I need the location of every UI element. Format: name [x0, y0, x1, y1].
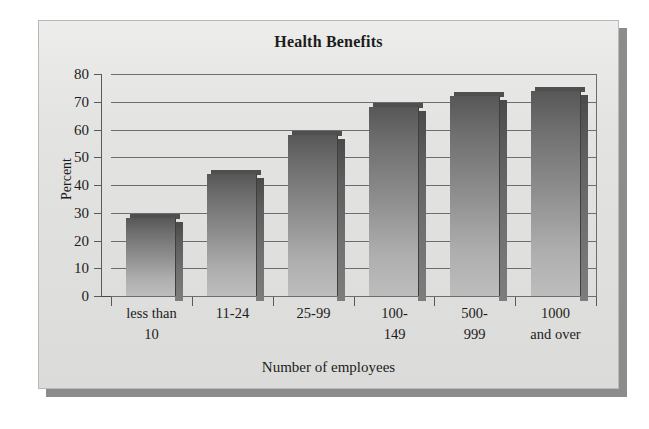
y-axis-tick-label: 70 [74, 93, 89, 110]
y-axis-tick-label: 10 [74, 260, 89, 277]
gridline [111, 102, 596, 103]
gridline [111, 74, 596, 75]
bar-side-face [418, 111, 426, 301]
x-axis-category-label-line: 999 [434, 324, 515, 345]
y-axis-tick-label: 40 [74, 177, 89, 194]
gridline [111, 213, 596, 214]
y-axis-tick-label: 50 [74, 149, 89, 166]
gridline [111, 185, 596, 186]
x-axis-category-label: 500-999 [434, 303, 515, 345]
y-axis-tick-label: 0 [82, 288, 90, 305]
x-axis-category-label-line: 1000 [515, 303, 596, 324]
gridline [111, 130, 596, 131]
bar-slot [126, 74, 176, 296]
x-axis-category-label-line: less than [111, 303, 192, 324]
y-axis-tick-mark [94, 296, 101, 297]
bar-slot [450, 74, 500, 296]
x-axis-category-label-line: 500- [434, 303, 515, 324]
y-axis-tick-label: 30 [74, 204, 89, 221]
x-axis-category-label-line: 100- [354, 303, 435, 324]
x-axis-category-label-line: 11-24 [192, 303, 273, 324]
bar[interactable] [126, 218, 176, 296]
y-axis-tick-mark [94, 241, 101, 242]
y-axis-tick-mark [94, 157, 101, 158]
bar[interactable] [450, 96, 500, 296]
x-axis-category-label: 25-99 [273, 303, 354, 324]
plot-right-border [596, 74, 597, 297]
x-axis-category-label-line: and over [515, 324, 596, 345]
x-axis-category-label-line: 149 [354, 324, 435, 345]
bar-side-face [337, 139, 345, 301]
bar-side-face [256, 178, 264, 301]
bar[interactable] [207, 174, 257, 296]
bar[interactable] [288, 135, 338, 296]
x-axis-category-label: 100-149 [354, 303, 435, 345]
x-axis-category-label: 11-24 [192, 303, 273, 324]
gridline [111, 157, 596, 158]
y-axis-tick-mark [94, 74, 101, 75]
x-axis-category-label: 1000and over [515, 303, 596, 345]
y-axis-tick-mark [94, 268, 101, 269]
plot-area: 80706050403020100 [111, 74, 596, 296]
y-axis-line [101, 74, 102, 297]
bar-side-face [580, 95, 588, 301]
y-axis-tick-label: 60 [74, 121, 89, 138]
y-axis-title: Percent [59, 129, 75, 229]
chart-title: Health Benefits [39, 33, 618, 51]
x-axis-tick-labels: less than1011-2425-99100-149500-9991000a… [111, 303, 596, 355]
bar-slot [288, 74, 338, 296]
gridline [111, 241, 596, 242]
y-axis-tick-mark [94, 213, 101, 214]
x-axis-category-label-line: 10 [111, 324, 192, 345]
bar-slot [369, 74, 419, 296]
bar[interactable] [369, 107, 419, 296]
bar-slot [531, 74, 581, 296]
x-axis-category-label: less than10 [111, 303, 192, 345]
bar-slot [207, 74, 257, 296]
x-axis-category-label-line: 25-99 [273, 303, 354, 324]
chart-panel: Health Benefits Percent 8070605040302010… [38, 20, 619, 389]
gridline [111, 268, 596, 269]
bar-side-face [175, 222, 183, 301]
x-axis-title: Number of employees [39, 359, 618, 376]
x-axis-tick-mark [596, 297, 597, 306]
y-axis-tick-mark [94, 130, 101, 131]
y-axis-tick-label: 20 [74, 232, 89, 249]
y-axis-tick-mark [94, 102, 101, 103]
y-axis-tick-label: 80 [74, 66, 89, 83]
bar[interactable] [531, 91, 581, 296]
bar-side-face [499, 100, 507, 301]
y-axis-tick-mark [94, 185, 101, 186]
